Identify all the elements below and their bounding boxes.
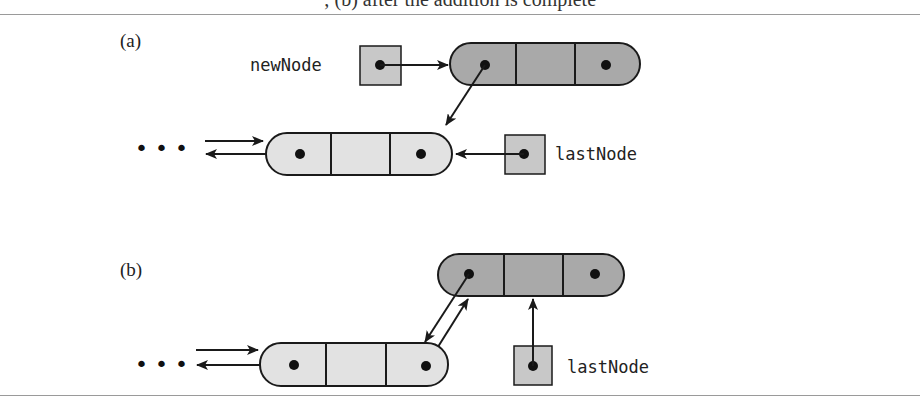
lastnode-label-a: lastNode <box>555 144 637 164</box>
panel-a: (a) newNode • • • lastN <box>120 30 640 175</box>
ellipsis-a: • • • <box>135 136 188 161</box>
ellipsis-b: • • • <box>135 352 188 377</box>
new-last-node-b <box>438 254 624 296</box>
panel-b-label: (b) <box>120 259 142 281</box>
previous-node-b <box>260 343 448 386</box>
panel-a-label: (a) <box>120 30 141 52</box>
newnode-label: newNode <box>250 55 322 75</box>
linked-list-diagram: (a) newNode • • • lastN <box>0 0 920 399</box>
new-node-a <box>450 43 640 85</box>
next-pointer-dot <box>601 60 611 70</box>
existing-last-node-a <box>266 133 452 175</box>
lastnode-label-b: lastNode <box>567 357 649 377</box>
panel-b: (b) • • • lastNode <box>120 254 649 386</box>
